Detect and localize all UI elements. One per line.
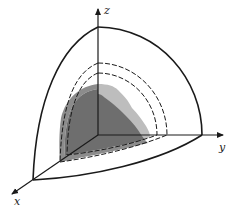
x-axis-label: x: [14, 195, 21, 208]
x-axis: [12, 135, 98, 194]
y-axis-label: y: [218, 141, 226, 154]
z-axis-label: z: [103, 4, 110, 17]
octant-diagram: z y x: [0, 0, 235, 209]
shaded-regions: [59, 84, 150, 162]
